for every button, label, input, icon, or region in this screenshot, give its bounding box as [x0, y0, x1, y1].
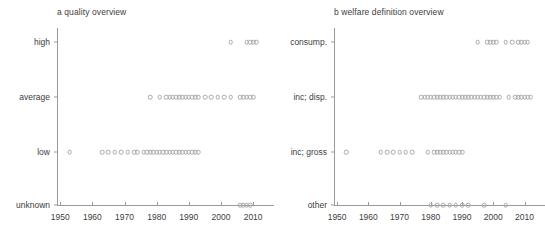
- data-point: [222, 95, 227, 100]
- data-point: [528, 95, 533, 100]
- data-point: [494, 40, 499, 45]
- panel-welfare-definition-overview: b welfare definition overview consump.in…: [271, 0, 541, 237]
- data-point: [404, 150, 409, 155]
- x-axis-label-1960: 1960: [359, 212, 378, 222]
- data-point: [503, 203, 508, 208]
- x-axis-tick: [221, 202, 222, 206]
- x-axis-label-1970: 1970: [115, 212, 134, 222]
- data-point: [251, 95, 256, 100]
- data-point: [525, 40, 530, 45]
- y-axis-tick: [331, 152, 335, 153]
- x-axis-tick: [125, 202, 126, 206]
- y-axis-tick: [54, 42, 58, 43]
- y-axis-label-average: average: [0, 92, 50, 102]
- panel-b-plot-area: consump.inc; disp.inc; grossother1950196…: [271, 0, 541, 237]
- x-axis-label-2010: 2010: [244, 212, 263, 222]
- y-axis-tick: [54, 152, 58, 153]
- data-point: [228, 40, 233, 45]
- data-point: [482, 203, 487, 208]
- y-axis-tick: [54, 97, 58, 98]
- x-axis-label-2000: 2000: [484, 212, 503, 222]
- data-point: [510, 40, 515, 45]
- y-axis-label-consump-: consump.: [271, 37, 327, 47]
- x-axis-label-1990: 1990: [179, 212, 198, 222]
- x-axis-tick: [400, 202, 401, 206]
- x-axis-tick: [92, 202, 93, 206]
- data-point: [68, 150, 73, 155]
- data-point: [460, 150, 465, 155]
- data-point: [391, 150, 396, 155]
- data-point: [454, 203, 459, 208]
- y-axis-label-inc-disp-: inc; disp.: [271, 92, 327, 102]
- x-axis-line-b: [334, 205, 545, 206]
- data-point: [441, 203, 446, 208]
- data-point: [209, 95, 214, 100]
- x-axis-label-2000: 2000: [212, 212, 231, 222]
- y-axis-tick: [331, 205, 335, 206]
- x-axis-label-2010: 2010: [515, 212, 534, 222]
- panel-a-plot-area: highaveragelowunknown1950196019701980199…: [0, 0, 271, 237]
- data-point: [158, 95, 163, 100]
- x-axis-tick: [157, 202, 158, 206]
- data-point: [385, 150, 390, 155]
- data-point: [196, 95, 201, 100]
- data-point: [100, 150, 105, 155]
- data-point: [460, 203, 465, 208]
- x-axis-tick: [493, 202, 494, 206]
- y-axis-label-other: other: [271, 200, 327, 210]
- data-point: [248, 203, 253, 208]
- y-axis-label-unknown: unknown: [0, 200, 50, 210]
- x-axis-label-1980: 1980: [421, 212, 440, 222]
- x-axis-tick: [60, 202, 61, 206]
- data-point: [429, 203, 434, 208]
- y-axis-line-a: [57, 28, 58, 205]
- data-point: [148, 95, 153, 100]
- data-point: [447, 203, 452, 208]
- y-axis-tick: [331, 97, 335, 98]
- y-axis-tick: [54, 205, 58, 206]
- data-point: [135, 150, 140, 155]
- x-axis-tick: [525, 202, 526, 206]
- data-point: [507, 95, 512, 100]
- x-axis-tick: [189, 202, 190, 206]
- data-point: [379, 150, 384, 155]
- data-point: [125, 150, 130, 155]
- x-axis-label-1950: 1950: [328, 212, 347, 222]
- x-axis-label-1990: 1990: [453, 212, 472, 222]
- data-point: [397, 150, 402, 155]
- x-axis-label-1950: 1950: [51, 212, 70, 222]
- x-axis-label-1970: 1970: [390, 212, 409, 222]
- data-point: [435, 203, 440, 208]
- x-axis-tick: [368, 202, 369, 206]
- data-point: [215, 95, 220, 100]
- data-point: [119, 150, 124, 155]
- data-point: [475, 40, 480, 45]
- data-point: [228, 95, 233, 100]
- x-axis-tick: [253, 202, 254, 206]
- panel-quality-overview: a quality overview highaveragelowunknown…: [0, 0, 271, 237]
- data-point: [410, 150, 415, 155]
- data-point: [196, 150, 201, 155]
- y-axis-tick: [331, 42, 335, 43]
- data-point: [503, 40, 508, 45]
- y-axis-label-inc-gross: inc; gross: [271, 147, 327, 157]
- x-axis-label-1980: 1980: [147, 212, 166, 222]
- y-axis-label-low: low: [0, 147, 50, 157]
- data-point: [344, 150, 349, 155]
- y-axis-label-high: high: [0, 37, 50, 47]
- x-axis-label-1960: 1960: [83, 212, 102, 222]
- data-point: [106, 150, 111, 155]
- data-point: [497, 95, 502, 100]
- y-axis-line-b: [334, 28, 335, 205]
- x-axis-tick: [337, 202, 338, 206]
- data-point: [425, 150, 430, 155]
- data-point: [113, 150, 118, 155]
- data-point: [466, 203, 471, 208]
- data-point: [254, 40, 259, 45]
- data-point: [203, 95, 208, 100]
